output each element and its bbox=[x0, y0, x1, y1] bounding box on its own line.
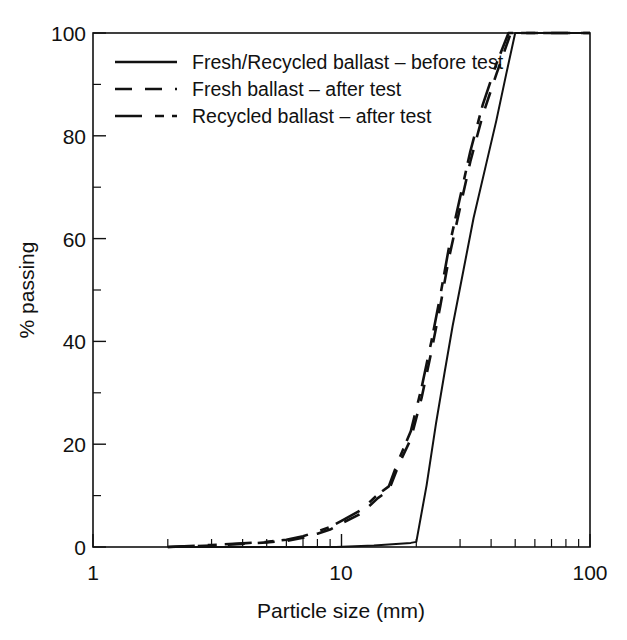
x-tick-label-10: 10 bbox=[329, 561, 352, 584]
y-tick-label-80: 80 bbox=[63, 125, 86, 148]
y-axis-title: % passing bbox=[15, 242, 38, 339]
y-tick-label-60: 60 bbox=[63, 228, 86, 251]
y-tick-label-100: 100 bbox=[51, 22, 86, 45]
legend-label-0: Fresh/Recycled ballast – before test bbox=[192, 51, 504, 73]
x-axis-title: Particle size (mm) bbox=[257, 599, 425, 622]
y-tick-label-20: 20 bbox=[63, 433, 86, 456]
legend-label-1: Fresh ballast – after test bbox=[192, 78, 402, 100]
y-tick-label-0: 0 bbox=[74, 536, 86, 559]
x-tick-label-100: 100 bbox=[572, 561, 607, 584]
particle-size-distribution-chart: 100 80 60 40 20 0 1 10 100 Particle size… bbox=[0, 0, 627, 640]
x-tick-label-1: 1 bbox=[87, 561, 99, 584]
y-tick-label-40: 40 bbox=[63, 330, 86, 353]
chart-container: 100 80 60 40 20 0 1 10 100 Particle size… bbox=[0, 0, 627, 640]
legend-label-2: Recycled ballast – after test bbox=[192, 105, 432, 127]
